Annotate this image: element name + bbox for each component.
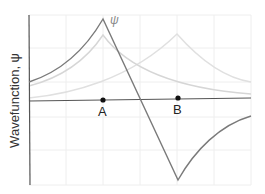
point-a-label: A [98, 104, 107, 119]
point-b-label: B [173, 102, 182, 117]
y-axis-label: Wavefunction, ψ [2, 15, 26, 185]
point-a-marker [100, 97, 105, 102]
y-axis [29, 15, 30, 185]
psi-curve-label: ψ [110, 13, 119, 27]
point-b-marker [175, 95, 180, 100]
y-axis-label-text: Wavefunction, ψ [7, 53, 22, 148]
wavefunction-diagram [0, 0, 265, 194]
